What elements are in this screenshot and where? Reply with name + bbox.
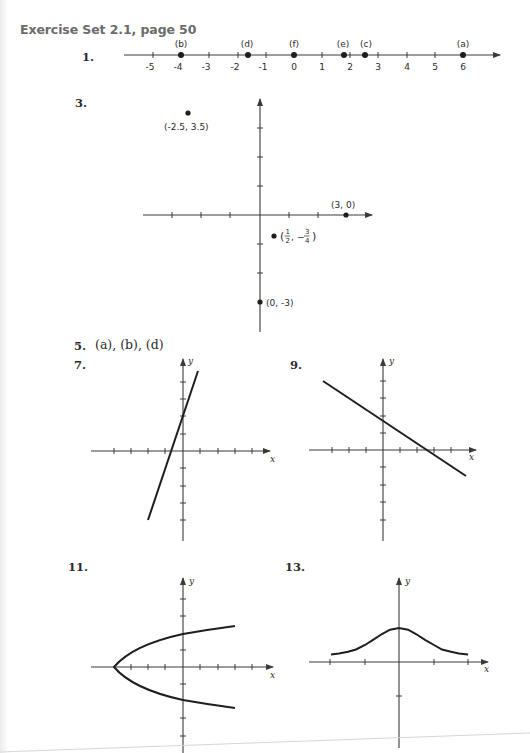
svg-text:2: 2 — [347, 62, 353, 72]
number-line-figure: -5 -4 -3 -2 -1 0 1 2 3 4 5 6 (b) (d) (f)… — [124, 39, 500, 72]
svg-text:2: 2 — [286, 237, 290, 245]
plot-points-figure: (-2.5, 3.5) (3, 0) (0, -3) ( 1 2 , − 3 4… — [143, 99, 372, 332]
svg-text:-5: -5 — [146, 62, 155, 72]
svg-text:1: 1 — [286, 228, 290, 236]
svg-text:(b): (b) — [175, 39, 188, 49]
svg-text:3: 3 — [305, 228, 309, 236]
y-axis-label: y — [388, 356, 395, 366]
graph-problem-7: y x — [91, 356, 275, 541]
svg-text:(e): (e) — [337, 39, 350, 49]
svg-text:): ) — [312, 230, 316, 243]
graph-problem-13: y x — [309, 576, 489, 748]
number-line-point-labels: (b) (d) (f) (e) (c) (a) — [175, 39, 470, 49]
line-y-equals-3x-plus-2 — [148, 371, 198, 520]
x-axis-label: x — [270, 454, 275, 464]
figures-canvas: -5 -4 -3 -2 -1 0 1 2 3 4 5 6 (b) (d) (f)… — [0, 0, 530, 753]
line-2x-plus-3y-equals-5 — [323, 381, 466, 476]
number-line-tick-labels: -5 -4 -3 -2 -1 0 1 2 3 4 5 6 — [146, 62, 467, 72]
y-axis-label: y — [187, 356, 194, 366]
svg-text:-4: -4 — [174, 62, 183, 72]
graph-problem-11: y x — [91, 576, 275, 753]
svg-text:(: ( — [280, 230, 284, 243]
svg-text:-1: -1 — [259, 62, 268, 72]
svg-text:4: 4 — [305, 237, 310, 245]
y-axis-label: y — [188, 576, 195, 586]
svg-text:-3: -3 — [202, 62, 211, 72]
page-edge-line — [0, 733, 530, 752]
svg-text:-2: -2 — [231, 62, 240, 72]
svg-text:(c): (c) — [360, 39, 372, 49]
axis-ticks — [172, 128, 318, 273]
point-label-half-neg-three-quarters: ( 1 2 , − 3 4 ) — [280, 228, 316, 245]
svg-text:−: − — [297, 232, 305, 242]
svg-text:(-2.5, 3.5): (-2.5, 3.5) — [164, 122, 209, 132]
x-axis-label: x — [484, 664, 489, 674]
svg-text:4: 4 — [404, 62, 410, 72]
svg-text:(a): (a) — [457, 39, 470, 49]
svg-text:3: 3 — [375, 62, 381, 72]
x-axis-label: x — [469, 452, 474, 462]
svg-text:(0, -3): (0, -3) — [266, 298, 293, 308]
svg-text:,: , — [291, 232, 294, 242]
svg-text:0: 0 — [291, 62, 297, 72]
graph-problem-9: y x — [309, 356, 476, 541]
plotted-points — [185, 110, 348, 304]
svg-text:5: 5 — [432, 62, 438, 72]
svg-text:6: 6 — [460, 62, 466, 72]
x-axis-label: x — [270, 670, 275, 680]
svg-text:(f): (f) — [289, 39, 299, 49]
svg-text:(d): (d) — [241, 39, 254, 49]
svg-text:(3, 0): (3, 0) — [331, 200, 355, 210]
y-axis-label: y — [404, 576, 411, 586]
svg-text:1: 1 — [319, 62, 325, 72]
